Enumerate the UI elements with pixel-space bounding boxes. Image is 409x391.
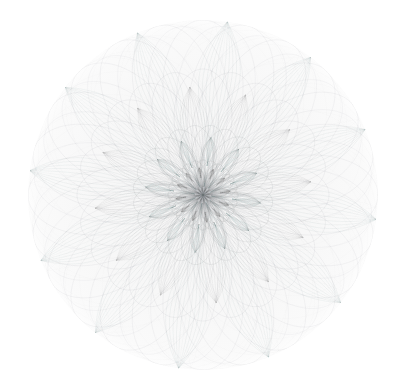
figure-root — [0, 0, 409, 391]
core-glow — [169, 161, 237, 229]
rose-curve-plot — [0, 0, 409, 391]
